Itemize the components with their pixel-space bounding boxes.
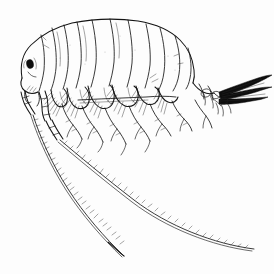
compound-eye xyxy=(26,59,34,69)
figure-caption xyxy=(0,258,274,274)
body-outline xyxy=(21,19,194,106)
figure-canvas xyxy=(0,0,274,274)
head xyxy=(24,58,37,92)
stipple-texture xyxy=(60,36,176,71)
setae-fringe xyxy=(42,36,183,118)
amphipod-illustration xyxy=(0,0,274,274)
pereon-segments xyxy=(51,19,150,90)
uropod-setal-brush xyxy=(213,75,272,116)
